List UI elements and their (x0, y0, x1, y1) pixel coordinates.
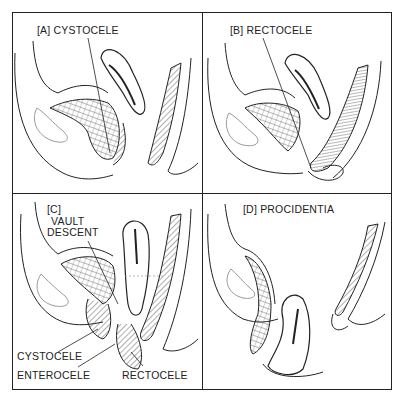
rectocele-illustration (203, 13, 392, 193)
panel-b-title: [B] RECTOCELE (230, 25, 312, 36)
panel-a-cystocele: [A] CYSTOCELE (13, 13, 202, 193)
panel-d-title: [D] PROCIDENTIA (243, 204, 334, 215)
label-descent: DESCENT (47, 227, 99, 238)
cystocele-illustration (13, 13, 202, 193)
panel-c-vault-descent: [C] VAULT DESCENT CYSTOCELE ENTEROCELE R… (13, 194, 202, 390)
label-cystocele: CYSTOCELE (17, 351, 82, 362)
panel-b-rectocele: [B] RECTOCELE (203, 13, 392, 193)
procidentia-illustration (203, 194, 392, 390)
label-rectocele: RECTOCELE (122, 370, 188, 381)
panel-d-procidentia: [D] PROCIDENTIA (203, 194, 392, 390)
panel-c-title: [C] (47, 204, 61, 215)
label-enterocele: ENTEROCELE (17, 370, 90, 381)
panel-a-title: [A] CYSTOCELE (37, 25, 119, 36)
